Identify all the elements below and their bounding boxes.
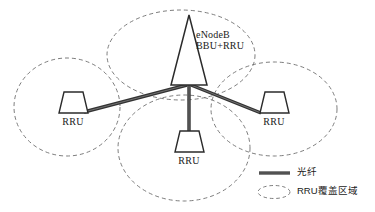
rru-left-icon [59, 92, 88, 113]
fiber-to-left-rru-highlight [84, 85, 187, 112]
legend-graphics [258, 173, 290, 199]
enodeb-label-line2: BBU+RRU [196, 40, 284, 51]
enodeb-label: eNodeB BBU+RRU [196, 29, 284, 51]
rru-left-label: RRU [51, 116, 95, 127]
network-topology-diagram: eNodeB BBU+RRU RRU RRU RRU 光纤 RRU覆盖区域 [0, 0, 375, 212]
rru-bottom-icon [175, 131, 204, 152]
rru-bottom-label: RRU [167, 155, 211, 166]
legend-fiber-label: 光纤 [297, 167, 317, 178]
legend-coverage-label: RRU覆盖区域 [297, 186, 358, 197]
enodeb-label-line1: eNodeB [196, 29, 284, 40]
diagram-canvas [0, 0, 375, 212]
fiber-link-group [84, 84, 261, 131]
legend-coverage-ellipse-icon [258, 186, 290, 199]
rru-right-icon [260, 92, 289, 113]
fiber-to-right-rru-highlight [191, 85, 261, 113]
rru-right-label: RRU [252, 116, 296, 127]
